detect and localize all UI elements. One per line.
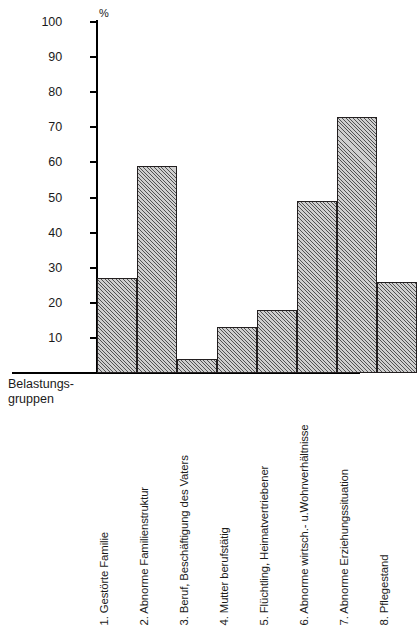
category-label: 3. Beruf, Beschäftigung des Vaters — [179, 455, 190, 625]
category-label: 4. Mutter berufstätig — [219, 527, 230, 625]
category-label: 7. Abnorme Erziehungssituation — [339, 469, 350, 625]
bar — [297, 201, 337, 373]
bar — [137, 166, 177, 373]
x-axis-caption: Belastungs- gruppen — [8, 377, 96, 406]
category-label: 1. Gestörte Familie — [99, 532, 110, 625]
bar — [377, 282, 417, 373]
bar — [337, 117, 377, 373]
bar — [217, 327, 257, 373]
bar — [177, 359, 217, 373]
x-axis-caption-line2: gruppen — [8, 392, 96, 407]
bar — [97, 278, 137, 373]
category-label: 2. Abnorme Familienstruktur — [139, 487, 150, 625]
category-label: 6. Abnorme wirtsch.- u.Wohnverhältnisse — [299, 424, 310, 625]
category-label: 8. Pflegestand — [379, 554, 390, 625]
x-axis-caption-line1: Belastungs- — [8, 377, 96, 392]
bar — [257, 310, 297, 373]
category-label: 5. Flüchtling, Heimatvertriebener — [259, 465, 270, 625]
